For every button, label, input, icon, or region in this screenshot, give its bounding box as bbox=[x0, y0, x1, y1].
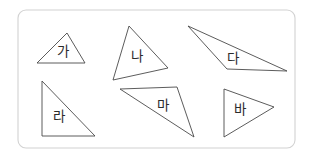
triangle-da-label: 다 bbox=[227, 51, 240, 66]
triangle-ma-label: 마 bbox=[157, 98, 170, 113]
triangle-ra-label: 라 bbox=[53, 109, 66, 124]
figure-container: 가 나 다 라 마 바 bbox=[0, 0, 312, 159]
triangle-ba-label: 바 bbox=[234, 102, 247, 117]
triangles-figure: 가 나 다 라 마 바 bbox=[0, 0, 312, 159]
triangle-ga-label: 가 bbox=[57, 44, 69, 59]
triangle-na-label: 나 bbox=[131, 49, 143, 64]
